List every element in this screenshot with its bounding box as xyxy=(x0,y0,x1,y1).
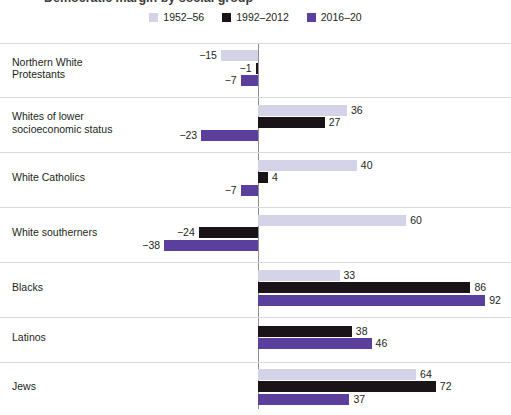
bar-value-label: −1 xyxy=(240,63,252,74)
legend-label-s1952: 1952–56 xyxy=(163,12,204,23)
bar-value-label: 92 xyxy=(489,295,501,306)
bar-s2016[interactable] xyxy=(201,130,258,141)
legend-item-s1992[interactable]: 1992–2012 xyxy=(222,12,289,23)
bar-value-label: −24 xyxy=(177,227,195,238)
bar-s1992[interactable] xyxy=(258,172,268,183)
plot-area: Northern White Protestants−15−1−7Whites … xyxy=(0,43,511,415)
chart-row: Blacks338692 xyxy=(0,262,511,317)
bar-value-label: 4 xyxy=(272,172,278,183)
legend-label-s1992: 1992–2012 xyxy=(236,12,289,23)
chart-legend: 1952–561992–20122016–20 xyxy=(0,9,511,25)
row-separator xyxy=(0,43,511,44)
bar-value-label: 27 xyxy=(329,117,341,128)
bar-s2016[interactable] xyxy=(164,240,258,251)
legend-item-s2016[interactable]: 2016–20 xyxy=(307,12,362,23)
chart-row: White Catholics404−7 xyxy=(0,152,511,207)
bar-value-label: 40 xyxy=(361,160,373,171)
legend-item-s1952[interactable]: 1952–56 xyxy=(149,12,204,23)
bar-value-label: −38 xyxy=(142,240,160,251)
bar-value-label: −23 xyxy=(179,130,197,141)
bar-s1952[interactable] xyxy=(258,105,347,116)
bar-s2016[interactable] xyxy=(258,295,485,306)
bar-s1992[interactable] xyxy=(258,381,436,392)
bar-value-label: −7 xyxy=(225,185,237,196)
bar-s1952[interactable] xyxy=(258,369,416,380)
bar-s1952[interactable] xyxy=(258,215,406,226)
bar-group: 3627−23 xyxy=(0,97,511,152)
bar-value-label: 86 xyxy=(474,282,486,293)
bar-value-label: 60 xyxy=(410,215,422,226)
bar-value-label: 37 xyxy=(353,394,365,405)
bar-group: −15−1−7 xyxy=(0,43,511,97)
bar-s2016[interactable] xyxy=(241,75,258,86)
bar-s1952[interactable] xyxy=(221,50,258,61)
chart-row: White southerners60−24−38 xyxy=(0,207,511,262)
bar-value-label: 72 xyxy=(440,381,452,392)
chart-row: Northern White Protestants−15−1−7 xyxy=(0,43,511,97)
bar-s1992[interactable] xyxy=(256,63,258,74)
bar-s1992[interactable] xyxy=(199,227,258,238)
chart-row: Latinos3846 xyxy=(0,317,511,362)
bar-s1992[interactable] xyxy=(258,117,325,128)
bar-s1952[interactable] xyxy=(258,270,340,281)
legend-label-s2016: 2016–20 xyxy=(321,12,362,23)
bar-s1992[interactable] xyxy=(258,282,470,293)
bar-value-label: −15 xyxy=(199,50,217,61)
bar-value-label: 64 xyxy=(420,369,432,380)
bar-value-label: 38 xyxy=(356,326,368,337)
bar-value-label: 46 xyxy=(376,338,388,349)
chart-row: Jews647237 xyxy=(0,362,511,415)
bar-group: 647237 xyxy=(0,362,511,415)
chart-title: Democratic margin by social group xyxy=(44,0,253,5)
bar-group: 338692 xyxy=(0,262,511,317)
bar-value-label: 36 xyxy=(351,105,363,116)
chart-row: Whites of lower socioeconomic status3627… xyxy=(0,97,511,152)
bar-group: 60−24−38 xyxy=(0,207,511,262)
chart-root: Democratic margin by social group 1952–5… xyxy=(0,0,511,415)
bar-group: 404−7 xyxy=(0,152,511,207)
chart-title-clipped: Democratic margin by social group xyxy=(0,0,511,9)
bar-s2016[interactable] xyxy=(258,338,372,349)
bar-value-label: −7 xyxy=(225,75,237,86)
bar-s2016[interactable] xyxy=(241,185,258,196)
bar-s2016[interactable] xyxy=(258,394,349,405)
bar-s1992[interactable] xyxy=(258,326,352,337)
legend-swatch-s1952 xyxy=(149,13,158,22)
bar-group: 3846 xyxy=(0,317,511,362)
legend-swatch-s2016 xyxy=(307,13,316,22)
bar-value-label: 33 xyxy=(344,270,356,281)
legend-swatch-s1992 xyxy=(222,13,231,22)
bar-s1952[interactable] xyxy=(258,160,357,171)
